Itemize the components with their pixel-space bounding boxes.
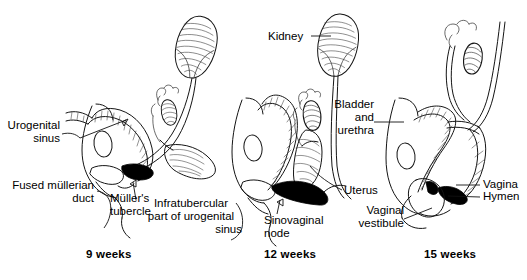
label-infratubercular-line3: sinus bbox=[140, 223, 242, 236]
stage-label-9-weeks: 9 weeks bbox=[86, 248, 132, 260]
label-vaginal-vestibule-line2: vestibule bbox=[340, 217, 404, 230]
label-vaginal-vestibule-line1: Vaginal bbox=[340, 204, 404, 217]
label-kidney: Kidney bbox=[268, 30, 303, 43]
stage-label-12-weeks: 12 weeks bbox=[264, 248, 316, 260]
label-sinovaginal-node-line2: node bbox=[264, 227, 290, 240]
label-bladder-line3: urethra bbox=[330, 124, 374, 137]
label-bladder-line1: Bladder bbox=[330, 98, 374, 111]
label-hymen: Hymen bbox=[483, 190, 519, 203]
label-uterus: Uterus bbox=[344, 184, 378, 197]
stage-label-15-weeks: 15 weeks bbox=[424, 248, 476, 260]
anatomy-figure: Urogenital sinus Fused müllerian duct Mü… bbox=[0, 0, 527, 280]
label-urogenital-sinus-line2: sinus bbox=[2, 132, 60, 145]
label-sinovaginal-node-line1: Sinovaginal bbox=[264, 214, 323, 227]
label-bladder-line2: and bbox=[330, 111, 374, 124]
label-urogenital-sinus-line1: Urogenital bbox=[2, 119, 60, 132]
label-fused-mullerian-duct-line1: Fused müllerian bbox=[0, 179, 94, 192]
label-infratubercular-line1: Infratubercular bbox=[146, 197, 236, 210]
label-mullers-tubercle-line1: Müller's bbox=[110, 192, 149, 205]
label-infratubercular-line2: part of urogenital bbox=[140, 210, 242, 223]
label-fused-mullerian-duct-line2: duct bbox=[0, 192, 94, 205]
